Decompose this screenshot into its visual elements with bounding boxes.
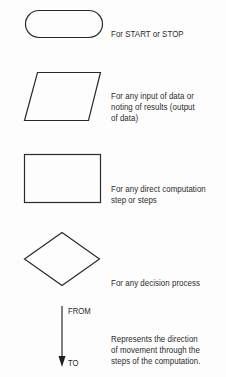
rectangle-symbol xyxy=(25,155,101,203)
flowchart-symbols-legend: For START or STOP For any input of data … xyxy=(0,0,226,377)
flow-arrow-symbol xyxy=(59,306,66,367)
terminator-symbol xyxy=(26,11,103,38)
parallelogram-description: For any input of data or noting of resul… xyxy=(111,91,195,124)
arrow-from-label: FROM xyxy=(68,306,91,316)
parallelogram-symbol xyxy=(25,73,101,121)
arrow-to-label: TO xyxy=(68,358,79,368)
terminator-description: For START or STOP xyxy=(111,29,184,40)
rectangle-description: For any direct computation step or steps xyxy=(111,184,206,206)
arrow-description: Represents the direction of movement thr… xyxy=(111,334,200,367)
diamond-description: For any decision process xyxy=(111,278,200,289)
diamond-symbol xyxy=(25,233,100,286)
